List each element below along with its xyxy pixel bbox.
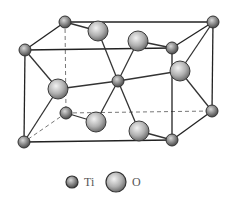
legend-ti-label: Ti xyxy=(84,175,94,190)
titanium-atom xyxy=(18,136,30,148)
oxygen-atom xyxy=(170,61,190,81)
legend-symbols xyxy=(66,172,126,192)
oxygen-atom xyxy=(128,31,148,51)
rutile-unit-cell-diagram xyxy=(0,0,232,208)
titanium-atom xyxy=(112,75,124,87)
oxygen-atom xyxy=(86,112,106,132)
oxygen-atom xyxy=(48,79,68,99)
titanium-atom xyxy=(59,16,71,28)
legend-ti-symbol xyxy=(66,176,78,188)
oxygen-atom xyxy=(88,21,108,41)
oxygen-atom xyxy=(129,121,149,141)
titanium-atom xyxy=(206,105,218,117)
legend-o-label: O xyxy=(132,175,141,190)
titanium-atom xyxy=(166,134,178,146)
titanium-atom xyxy=(60,107,72,119)
titanium-atom xyxy=(19,44,31,56)
titanium-atom xyxy=(207,16,219,28)
titanium-atom xyxy=(166,42,178,54)
legend-o-symbol xyxy=(106,172,126,192)
